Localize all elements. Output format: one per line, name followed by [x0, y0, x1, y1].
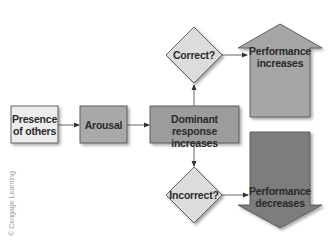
label-incorrect: Incorrect? [166, 189, 222, 201]
node-performance-increases-arrow [238, 24, 322, 117]
label-presence-of-others: Presence of others [11, 113, 58, 137]
label-correct: Correct? [166, 49, 222, 61]
copyright-credit: © Cengage Learning [8, 169, 15, 239]
node-performance-decreases-arrow [238, 132, 322, 228]
label-performance-decreases: Performance decreases [246, 185, 314, 209]
label-arousal: Arousal [80, 119, 127, 131]
label-performance-increases: Performance increases [246, 45, 314, 69]
label-dominant-response: Dominant response increases [150, 113, 239, 149]
